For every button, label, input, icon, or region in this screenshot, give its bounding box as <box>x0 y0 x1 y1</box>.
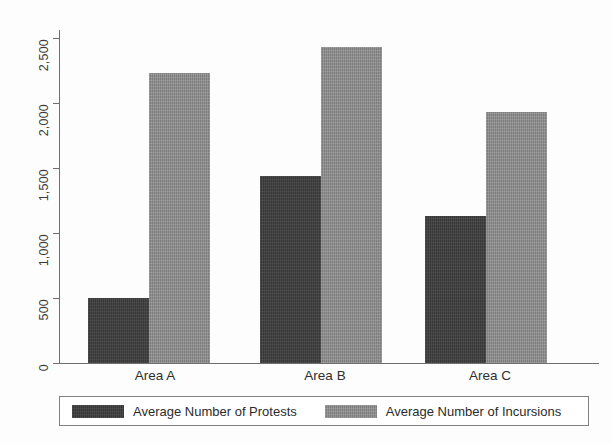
x-axis-line <box>59 363 599 364</box>
y-tick-mark-0 <box>53 363 60 364</box>
legend-swatch-protests <box>72 405 124 418</box>
legend-item-protests: Average Number of Protests <box>72 397 297 425</box>
legend-label-protests: Average Number of Protests <box>133 404 297 419</box>
plot-area: 0 500 1,000 1,500 2,000 2,500 Area A Are… <box>0 0 612 390</box>
x-category-label-0: Area A <box>120 368 190 383</box>
bar-chart: 0 500 1,000 1,500 2,000 2,500 Area A Are… <box>0 0 612 443</box>
x-category-label-1: Area B <box>290 368 360 383</box>
bar-area-a-protests <box>88 298 149 363</box>
x-category-label-2: Area C <box>455 368 525 383</box>
bar-area-c-protests <box>425 216 486 363</box>
bar-area-b-incursions <box>321 47 382 363</box>
legend-item-incursions: Average Number of Incursions <box>325 397 561 425</box>
legend-swatch-incursions <box>325 405 377 418</box>
legend: Average Number of Protests Average Numbe… <box>59 396 589 426</box>
legend-label-incursions: Average Number of Incursions <box>386 404 561 419</box>
bar-area-c-incursions <box>486 112 547 363</box>
bar-area-b-protests <box>260 176 321 363</box>
bar-area-a-incursions <box>149 73 210 363</box>
bars-layer <box>0 0 612 363</box>
